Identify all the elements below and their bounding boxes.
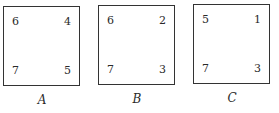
corner-number-bottom-left: 7: [202, 63, 209, 74]
corner-number-top-right: 2: [159, 15, 166, 26]
corner-number-bottom-right: 3: [159, 64, 166, 75]
square-b-label: B: [127, 93, 147, 105]
corner-number-top-right: 4: [64, 16, 71, 27]
square-a-label: A: [32, 94, 52, 106]
corner-number-bottom-left: 7: [12, 65, 19, 76]
square-c-label: C: [222, 92, 242, 104]
square-c: 5 1 7 3: [193, 4, 270, 84]
corner-number-bottom-left: 7: [107, 64, 114, 75]
corner-number-bottom-right: 5: [64, 65, 71, 76]
corner-number-bottom-right: 3: [254, 63, 261, 74]
corner-number-top-left: 5: [202, 14, 209, 25]
corner-number-top-left: 6: [12, 16, 19, 27]
corner-number-top-left: 6: [107, 15, 114, 26]
square-a: 6 4 7 5: [3, 6, 80, 86]
corner-number-top-right: 1: [254, 14, 261, 25]
square-b: 6 2 7 3: [98, 5, 175, 85]
